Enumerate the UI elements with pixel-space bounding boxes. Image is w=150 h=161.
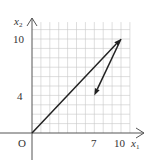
x-axis-label: x1 [130,137,140,151]
y-tick-4: 4 [17,90,23,102]
x-tick-10: 10 [114,137,126,149]
y-axis-label: x2 [13,15,23,29]
arrowhead-icon [94,88,99,95]
grid [32,22,130,133]
x-tick-7: 7 [91,137,97,149]
vector-shaft [32,44,116,133]
origin-label: O [18,137,26,149]
y-tick-10: 10 [13,33,25,45]
vector-diagram: O 7 10 4 10 x1 x2 [0,0,150,161]
vector-shaft [97,39,121,89]
